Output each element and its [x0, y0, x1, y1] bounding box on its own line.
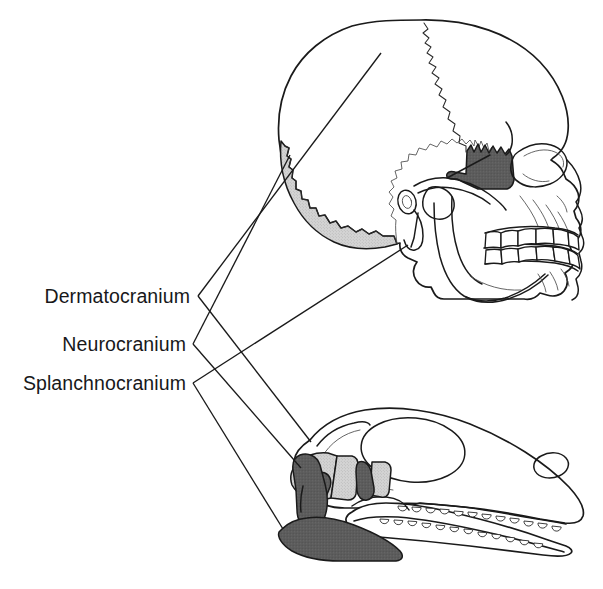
cranium-diagram-svg: Dermatocranium Neurocranium Splanchnocra…: [0, 0, 603, 589]
reptile-skull-group: [279, 408, 584, 561]
figure-root: Dermatocranium Neurocranium Splanchnocra…: [0, 0, 603, 589]
leader-splanchnocranium-upper: [193, 245, 408, 383]
human-skull-group: [279, 20, 584, 302]
label-neurocranium: Neurocranium: [62, 333, 186, 355]
leader-neurocranium-lower: [193, 344, 301, 468]
label-dermatocranium: Dermatocranium: [44, 285, 190, 307]
labels-group: Dermatocranium Neurocranium Splanchnocra…: [23, 285, 190, 394]
leader-neurocranium-upper: [193, 155, 290, 344]
leader-splanchnocranium-lower: [193, 383, 283, 529]
label-splanchnocranium: Splanchnocranium: [23, 372, 186, 394]
